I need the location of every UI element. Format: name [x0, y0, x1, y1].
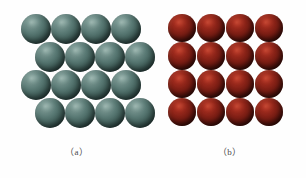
sphere-a-11 [81, 70, 111, 100]
sphere-b-11 [226, 70, 254, 98]
sphere-a-15 [95, 98, 125, 128]
sphere-b-8 [255, 42, 283, 70]
sphere-a-16 [125, 98, 155, 128]
sphere-a-5 [35, 42, 65, 72]
sphere-b-6 [197, 42, 225, 70]
sphere-b-10 [197, 70, 225, 98]
sphere-b-1 [168, 14, 196, 42]
sphere-b-5 [168, 42, 196, 70]
sphere-b-13 [168, 98, 196, 126]
sphere-b-4 [255, 14, 283, 42]
sphere-a-6 [65, 42, 95, 72]
figure-root: （a） （b） [0, 0, 306, 178]
sphere-b-2 [197, 14, 225, 42]
panel-b: （b） [153, 0, 306, 178]
panel-a-caption: （a） [0, 146, 153, 158]
sphere-a-4 [111, 14, 141, 44]
sphere-b-12 [255, 70, 283, 98]
sphere-field-a [0, 0, 153, 145]
sphere-b-16 [255, 98, 283, 126]
sphere-a-2 [51, 14, 81, 44]
sphere-a-12 [111, 70, 141, 100]
sphere-b-14 [197, 98, 225, 126]
panel-a: （a） [0, 0, 153, 178]
sphere-b-3 [226, 14, 254, 42]
sphere-a-8 [125, 42, 155, 72]
sphere-a-9 [21, 70, 51, 100]
sphere-a-10 [51, 70, 81, 100]
sphere-a-13 [35, 98, 65, 128]
sphere-b-7 [226, 42, 254, 70]
sphere-field-b [153, 0, 306, 145]
panel-b-caption: （b） [153, 146, 306, 158]
sphere-a-14 [65, 98, 95, 128]
sphere-a-1 [21, 14, 51, 44]
sphere-b-9 [168, 70, 196, 98]
sphere-a-3 [81, 14, 111, 44]
sphere-a-7 [95, 42, 125, 72]
sphere-b-15 [226, 98, 254, 126]
